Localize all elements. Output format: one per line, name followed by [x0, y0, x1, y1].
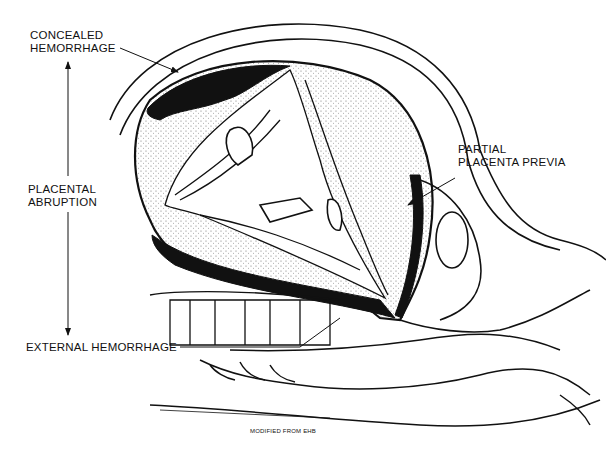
label-external-hemorrhage: EXTERNAL HEMORRHAGE: [26, 341, 177, 354]
credit-text: MODIFIED FROM EHB: [250, 428, 316, 434]
label-concealed-hemorrhage: CONCEALED HEMORRHAGE: [30, 29, 116, 55]
spine: [150, 292, 340, 345]
label-placental-abruption: PLACENTAL ABRUPTION: [28, 183, 97, 209]
external-hemorrhage-pointer: [180, 318, 340, 347]
birth-canal: [150, 334, 600, 426]
label-line: HEMORRHAGE: [30, 42, 116, 55]
label-line: PARTIAL: [458, 143, 566, 156]
label-line: PLACENTAL: [28, 183, 97, 196]
label-partial-placenta-previa: PARTIAL PLACENTA PREVIA: [458, 143, 566, 169]
label-line: CONCEALED: [30, 29, 116, 42]
label-line: ABRUPTION: [28, 196, 97, 209]
label-line: PLACENTA PREVIA: [458, 156, 566, 169]
diagram-canvas: CONCEALED HEMORRHAGE PLACENTAL ABRUPTION…: [0, 0, 606, 460]
anatomy-illustration: [0, 0, 606, 460]
